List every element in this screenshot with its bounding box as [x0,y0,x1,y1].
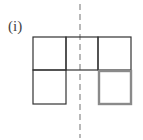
square-net-diagram [0,0,143,140]
cell-r1-c0 [33,70,66,104]
cell-r0-c2 [98,37,131,70]
cell-r0-c0 [33,37,66,70]
cell-r0-c1 [66,37,98,70]
highlighted-cell-r1-c2 [99,71,131,104]
